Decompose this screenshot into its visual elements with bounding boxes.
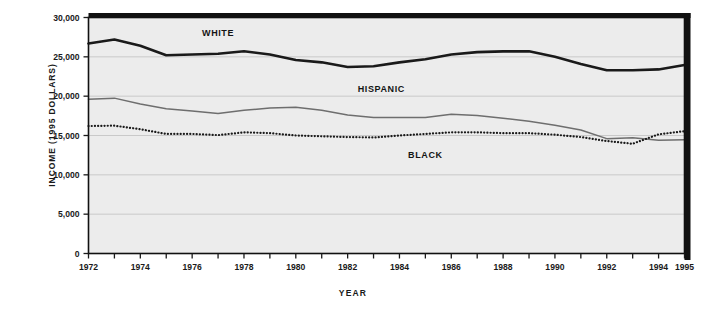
chart-figure: INCOME (1995 DOLLARS) YEAR 05,00010,0001… bbox=[0, 0, 706, 311]
y-tick-label: 5,000 bbox=[58, 209, 80, 219]
series-label-hispanic: HISPANIC bbox=[358, 84, 405, 94]
y-tick-label: 10,000 bbox=[53, 170, 80, 180]
x-tick-label: 1990 bbox=[545, 262, 564, 272]
x-tick-label: 1984 bbox=[390, 262, 409, 272]
x-tick-label: 1972 bbox=[79, 262, 98, 272]
x-tick-label: 1992 bbox=[597, 262, 616, 272]
x-tick-label: 1974 bbox=[131, 262, 150, 272]
x-tick-label: 1986 bbox=[442, 262, 461, 272]
x-tick-label: 1994 bbox=[649, 262, 668, 272]
y-tick-label: 0 bbox=[75, 249, 80, 259]
series-label-white: WHITE bbox=[202, 28, 234, 38]
x-tick-label: 1976 bbox=[183, 262, 202, 272]
y-tick-label: 30,000 bbox=[53, 13, 80, 23]
y-axis-ticks: 05,00010,00015,00020,00025,00030,000 bbox=[53, 13, 88, 259]
x-tick-label: 1995 bbox=[675, 262, 694, 272]
x-tick-label: 1988 bbox=[494, 262, 513, 272]
y-tick-label: 25,000 bbox=[53, 52, 80, 62]
y-tick-label: 15,000 bbox=[53, 131, 80, 141]
series-label-black: BLACK bbox=[408, 150, 443, 160]
line-chart-plot: 05,00010,00015,00020,00025,00030,000 197… bbox=[0, 0, 706, 311]
x-tick-label: 1982 bbox=[338, 262, 357, 272]
x-tick-label: 1978 bbox=[234, 262, 253, 272]
y-tick-label: 20,000 bbox=[53, 91, 80, 101]
x-tick-label: 1980 bbox=[286, 262, 305, 272]
